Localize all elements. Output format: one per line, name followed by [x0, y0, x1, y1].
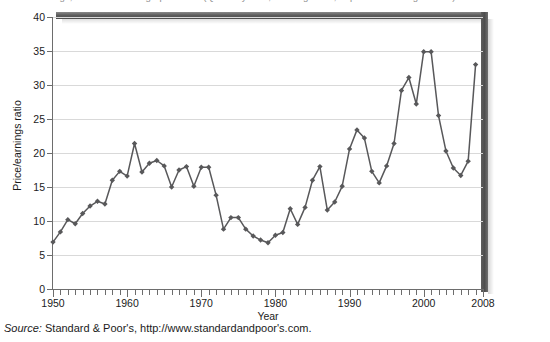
gridline — [53, 119, 483, 120]
x-tick-mark-minor — [446, 290, 447, 295]
x-tick-mark-major — [127, 290, 128, 297]
x-tick-mark-minor — [357, 290, 358, 295]
y-axis-title: Price/earnings ratio — [12, 51, 23, 241]
gridline — [53, 187, 483, 188]
x-tick-mark-minor — [387, 290, 388, 295]
y-axis-line — [52, 17, 53, 290]
x-tick-mark-minor — [90, 290, 91, 295]
x-tick-label: 1970 — [190, 297, 213, 309]
source-note: Source: Standard & Poor's, http://www.st… — [4, 322, 312, 335]
x-axis-title: Year — [53, 310, 483, 322]
x-tick-mark-minor — [209, 290, 210, 295]
x-tick-mark-minor — [305, 290, 306, 295]
y-tick-label: 0 — [0, 284, 45, 295]
x-tick-mark-minor — [157, 290, 158, 295]
x-tick-mark-major — [483, 290, 484, 297]
y-tick-label: 30 — [0, 80, 45, 91]
x-tick-mark-minor — [342, 290, 343, 295]
x-tick-mark-minor — [186, 290, 187, 295]
x-tick-mark-minor — [268, 290, 269, 295]
x-tick-label: 1960 — [115, 297, 138, 309]
x-tick-mark-minor — [409, 290, 410, 295]
x-tick-mark-minor — [238, 290, 239, 295]
gridline — [53, 153, 483, 154]
x-tick-mark-minor — [172, 290, 173, 295]
x-tick-mark-major — [201, 290, 202, 297]
x-tick-mark-minor — [216, 290, 217, 295]
x-tick-mark-major — [53, 290, 54, 297]
chart-figure: 0510152025303540 19501960197019801990200… — [0, 0, 550, 312]
x-tick-mark-minor — [298, 290, 299, 295]
x-tick-mark-minor — [320, 290, 321, 295]
x-tick-label: 1990 — [338, 297, 361, 309]
x-tick-mark-minor — [105, 290, 106, 295]
x-tick-mark-minor — [112, 290, 113, 295]
x-tick-mark-minor — [97, 290, 98, 295]
x-tick-mark-minor — [261, 290, 262, 295]
y-axis-tick-labels: 0510152025303540 — [0, 0, 45, 312]
x-tick-mark-minor — [453, 290, 454, 295]
gridline — [53, 255, 483, 256]
x-tick-mark-minor — [246, 290, 247, 295]
x-tick-mark-minor — [60, 290, 61, 295]
x-tick-mark-minor — [364, 290, 365, 295]
plot-area — [53, 17, 483, 289]
x-tick-mark-minor — [224, 290, 225, 295]
x-tick-mark-major — [275, 290, 276, 297]
x-tick-mark-minor — [120, 290, 121, 295]
source-text: Standard & Poor's, http://www.standardan… — [45, 322, 312, 334]
x-tick-label: 1950 — [41, 297, 64, 309]
x-tick-label: 2008 — [471, 297, 494, 309]
gridline — [53, 51, 483, 52]
source-label: Source: — [4, 322, 42, 334]
x-tick-mark-minor — [312, 290, 313, 295]
x-tick-mark-minor — [83, 290, 84, 295]
x-tick-mark-minor — [194, 290, 195, 295]
x-tick-mark-minor — [476, 290, 477, 295]
x-tick-mark-major — [350, 290, 351, 297]
x-tick-mark-minor — [401, 290, 402, 295]
y-tick-label: 5 — [0, 250, 45, 261]
gridline — [53, 17, 483, 18]
y-tick-label: 10 — [0, 216, 45, 227]
x-tick-mark-minor — [142, 290, 143, 295]
gridline — [53, 85, 483, 86]
y-tick-label: 20 — [0, 148, 45, 159]
y-tick-label: 35 — [0, 46, 45, 57]
x-tick-mark-minor — [283, 290, 284, 295]
frame-right-shadow — [488, 19, 494, 294]
x-tick-mark-minor — [231, 290, 232, 295]
x-tick-mark-minor — [135, 290, 136, 295]
x-tick-mark-minor — [179, 290, 180, 295]
x-tick-mark-minor — [290, 290, 291, 295]
x-tick-mark-minor — [164, 290, 165, 295]
x-tick-mark-minor — [253, 290, 254, 295]
x-tick-mark-minor — [416, 290, 417, 295]
x-tick-mark-major — [424, 290, 425, 297]
x-tick-mark-minor — [379, 290, 380, 295]
x-tick-label: 1980 — [264, 297, 287, 309]
x-tick-mark-minor — [335, 290, 336, 295]
x-tick-mark-minor — [394, 290, 395, 295]
x-tick-mark-minor — [327, 290, 328, 295]
x-tick-mark-minor — [439, 290, 440, 295]
y-tick-label: 15 — [0, 182, 45, 193]
y-tick-label: 25 — [0, 114, 45, 125]
x-tick-mark-minor — [75, 290, 76, 295]
x-tick-mark-minor — [149, 290, 150, 295]
x-tick-mark-minor — [461, 290, 462, 295]
y-tick-label: 40 — [0, 12, 45, 23]
gridline — [53, 221, 483, 222]
x-tick-mark-minor — [468, 290, 469, 295]
x-tick-mark-minor — [431, 290, 432, 295]
x-tick-mark-minor — [372, 290, 373, 295]
x-tick-mark-minor — [68, 290, 69, 295]
x-tick-label: 2000 — [412, 297, 435, 309]
